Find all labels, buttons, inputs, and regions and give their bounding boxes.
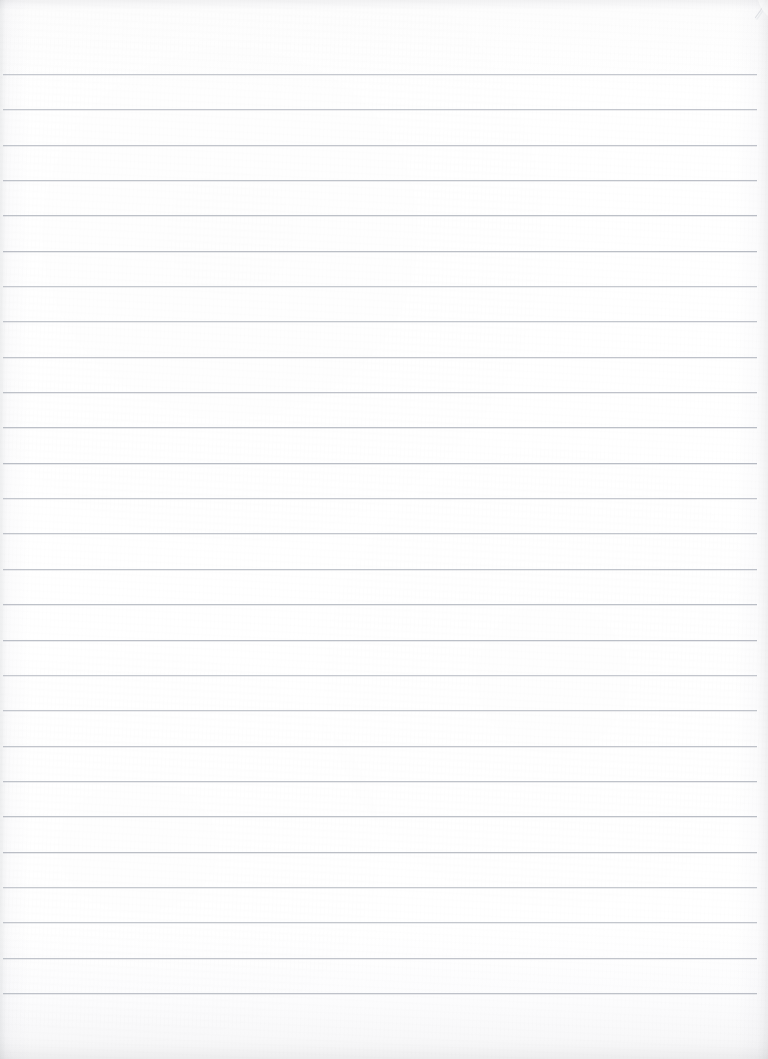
paper-horizontal-tone [0, 0, 768, 1059]
scanned-page-viewport [0, 0, 768, 1059]
paper-sheet [0, 0, 768, 1059]
paper-grain-texture [0, 0, 768, 1059]
paper-vertical-tone [0, 0, 768, 1059]
